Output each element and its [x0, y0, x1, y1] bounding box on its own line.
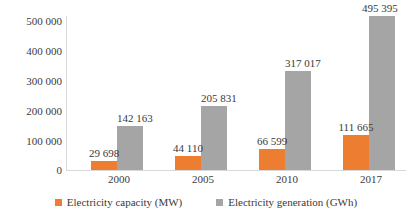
y-tick-label: 500 000	[2, 16, 62, 27]
bar-group: 44 110 205 831	[164, 14, 242, 170]
bar-value-label: 29 698	[75, 148, 133, 159]
chart-legend: Electricity capacity (MW) Electricity ge…	[0, 196, 412, 208]
bar-generation[interactable]	[369, 16, 395, 170]
bar-capacity[interactable]	[343, 135, 369, 170]
legend-label: Electricity generation (GWh)	[228, 196, 357, 208]
y-tick-label: 200 000	[2, 106, 62, 117]
bar-group: 66 599 317 017	[248, 14, 326, 170]
legend-label: Electricity capacity (MW)	[67, 196, 182, 208]
bar-generation[interactable]	[201, 106, 227, 170]
bar-value-label: 495 395	[362, 3, 412, 14]
bar-capacity[interactable]	[91, 161, 117, 170]
x-tick-label: 2017	[332, 173, 410, 185]
orange-square-icon	[55, 199, 62, 206]
plot-area: 29 698 142 163 44 110 205 831 66 599 317…	[66, 14, 406, 170]
x-tick-label: 2005	[164, 173, 242, 185]
y-tick-label: 300 000	[2, 76, 62, 87]
bar-capacity[interactable]	[259, 149, 285, 170]
x-axis-line	[66, 170, 406, 171]
bar-chart: 500 000 400 000 300 000 200 000 100 000 …	[0, 0, 412, 218]
y-tick-label: 100 000	[2, 136, 62, 147]
x-tick-label: 2000	[80, 173, 158, 185]
legend-item-capacity[interactable]: Electricity capacity (MW)	[55, 196, 182, 208]
y-tick-label: 0	[2, 165, 62, 176]
bar-capacity[interactable]	[175, 156, 201, 170]
bar-group: 111 665 495 395	[332, 14, 410, 170]
y-axis: 500 000 400 000 300 000 200 000 100 000 …	[0, 0, 62, 218]
bar-generation[interactable]	[285, 71, 311, 170]
legend-item-generation[interactable]: Electricity generation (GWh)	[216, 196, 357, 208]
bar-value-label: 66 599	[243, 136, 301, 147]
bar-value-label: 44 110	[159, 143, 217, 154]
gray-square-icon	[216, 199, 223, 206]
x-tick-label: 2010	[248, 173, 326, 185]
y-tick-label: 400 000	[2, 46, 62, 57]
bar-value-label: 111 665	[327, 122, 385, 133]
bar-group: 29 698 142 163	[80, 14, 158, 170]
